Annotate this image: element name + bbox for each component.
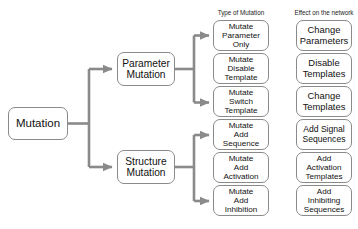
node-type-mutation-row-4[interactable]: Mutate Add Sequence: [213, 119, 269, 150]
node-type-line-1: Mutate: [229, 88, 254, 97]
node-type-line-1: Mutate: [229, 22, 254, 31]
node-effect-row-3[interactable]: Change Templates: [296, 86, 352, 117]
node-type-mutation-row-5[interactable]: Mutate Add Activation: [213, 152, 269, 183]
node-effect-line-2: Inhibiting: [308, 196, 340, 205]
node-effect-row-6[interactable]: Add Inhibiting Sequences: [296, 185, 352, 216]
node-type-line-2: Switch: [229, 97, 253, 106]
node-type-line-1: Mutate: [229, 187, 254, 196]
node-type-line-1: Mutate: [229, 121, 254, 130]
node-type-line-2: Parameter: [222, 31, 260, 40]
node-type-mutation-row-3[interactable]: Mutate Switch Template: [213, 86, 269, 117]
column-header-effect-on-the-network: Effect on the network: [294, 9, 354, 16]
node-effect-line-1: Change: [308, 25, 341, 36]
mutation-flowchart: Type of Mutation Effect on the network M…: [0, 0, 358, 229]
node-parameter-mutation[interactable]: Parameter Mutation: [117, 52, 175, 86]
node-type-mutation-row-1[interactable]: Mutate Parameter Only: [213, 20, 269, 51]
node-effect-row-1[interactable]: Change Parameters: [296, 20, 352, 51]
node-type-line-3: Sequence: [223, 139, 259, 148]
node-parameter-mutation-label-line2: Mutation: [126, 69, 165, 80]
node-type-line-3: Template: [225, 106, 258, 115]
node-type-mutation-row-2[interactable]: Mutate Disable Template: [213, 53, 269, 84]
node-effect-line-1: Disable: [308, 58, 339, 69]
node-type-mutation-row-6[interactable]: Mutate Add Inhibition: [213, 185, 269, 216]
node-type-line-2: Add: [234, 163, 248, 172]
node-structure-mutation-label-line2: Mutation: [126, 167, 165, 178]
node-type-line-3: Template: [225, 73, 258, 82]
node-effect-line-2: Sequences: [302, 135, 345, 145]
node-mutation[interactable]: Mutation: [8, 107, 68, 140]
node-effect-row-4[interactable]: Add Signal Sequences: [296, 119, 352, 150]
node-effect-line-1: Change: [308, 91, 341, 102]
node-effect-line-1: Add: [317, 187, 331, 196]
column-header-type-of-mutation: Type of Mutation: [213, 9, 269, 16]
node-effect-line-2: Templates: [303, 102, 346, 113]
node-type-line-2: Add: [234, 196, 248, 205]
node-type-line-3: Only: [233, 40, 250, 49]
node-type-line-2: Add: [234, 130, 248, 139]
node-type-line-1: Mutate: [229, 55, 254, 64]
node-effect-row-2[interactable]: Disable Templates: [296, 53, 352, 84]
node-effect-line-3: Sequences: [304, 205, 345, 214]
node-structure-mutation[interactable]: Structure Mutation: [117, 150, 175, 184]
node-type-line-3: Activation: [223, 172, 258, 181]
node-effect-line-2: Activation: [306, 163, 341, 172]
node-mutation-label: Mutation: [16, 117, 60, 130]
node-effect-line-3: Templates: [306, 172, 343, 181]
node-parameter-mutation-label-line1: Parameter: [122, 58, 170, 69]
node-effect-line-2: Parameters: [300, 36, 348, 47]
node-structure-mutation-label-line1: Structure: [125, 156, 166, 167]
node-type-line-3: Inhibition: [225, 205, 257, 214]
node-type-line-1: Mutate: [229, 154, 254, 163]
node-type-line-2: Disable: [228, 64, 255, 73]
node-effect-line-2: Templates: [303, 69, 346, 80]
node-effect-row-5[interactable]: Add Activation Templates: [296, 152, 352, 183]
node-effect-line-1: Add: [317, 154, 331, 163]
